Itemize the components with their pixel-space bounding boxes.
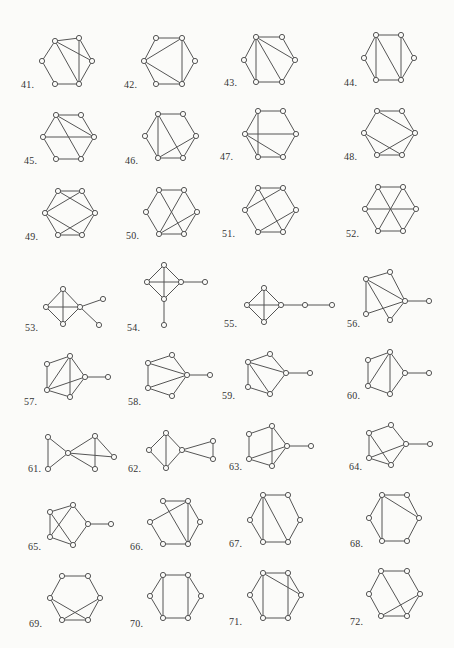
graph-vertex (241, 57, 246, 62)
graph-edge (50, 505, 73, 537)
graph-vertex (398, 77, 403, 82)
graph-edge (381, 571, 407, 616)
graph-vertex (246, 431, 251, 436)
figure-number: 68. (350, 538, 363, 549)
figure-number: 63. (229, 461, 242, 472)
graph-edge (164, 282, 181, 299)
graph-edge (146, 212, 159, 234)
figure-number: 42. (124, 79, 137, 90)
figure-page: 41.42.43.44.45.46.47.48.49.50.51.52.53.5… (0, 0, 454, 648)
graph-vertex (44, 361, 49, 366)
graph-vertex (85, 573, 90, 578)
graph-vertex (179, 35, 184, 40)
graph-edge (377, 111, 415, 133)
graph-edge (63, 289, 80, 307)
graph-edge (263, 573, 301, 595)
graph-vertex (416, 515, 421, 520)
graph-edge (248, 362, 270, 394)
graph-vertex (161, 322, 166, 327)
graph-vertex (59, 573, 64, 578)
figure-number: 69. (29, 618, 42, 629)
graph-vertex (285, 615, 290, 620)
graph-edge (248, 354, 270, 362)
graph-edge (149, 433, 166, 450)
graph-edge (369, 571, 381, 594)
graph-edge (145, 136, 158, 158)
graph-edge (55, 38, 79, 41)
graph-vertex (178, 279, 183, 284)
graph-vertex (426, 370, 431, 375)
graph-vertex (374, 108, 379, 113)
graph-edge (79, 61, 92, 84)
graph-vertex (379, 492, 384, 497)
graph-edge (148, 388, 172, 396)
graph-edge (184, 190, 197, 212)
graph-edge (403, 187, 416, 209)
figure-number: 46. (125, 155, 138, 166)
graph-edge (166, 450, 182, 468)
graph-vertex (284, 443, 289, 448)
graph-edge (366, 279, 390, 320)
graph-vertex (185, 572, 190, 577)
graph-figure (40, 112, 96, 161)
graph-vertex (92, 466, 97, 471)
graph-edge (147, 265, 164, 282)
graph-vertex (255, 108, 260, 113)
graph-vertex (60, 321, 65, 326)
graph-vertex (308, 443, 313, 448)
graph-figure (45, 433, 116, 471)
graph-edge (150, 575, 163, 596)
graph-vertex (39, 58, 44, 63)
graph-edge (164, 265, 181, 282)
figure-number: 72. (350, 616, 363, 627)
graph-figure (361, 32, 416, 82)
graph-edge (149, 450, 166, 468)
graph-edge (283, 134, 296, 157)
graph-edge (283, 188, 296, 210)
graph-edge (369, 518, 382, 541)
graph-vertex (96, 322, 101, 327)
figure-number: 51. (222, 228, 235, 239)
graph-vertex (255, 185, 260, 190)
graph-edge (249, 446, 287, 459)
graph-vertex (161, 296, 166, 301)
graph-vertex (47, 534, 52, 539)
graph-figure (42, 188, 97, 237)
graph-vertex (404, 613, 409, 618)
graph-edge (42, 41, 55, 61)
graph-edge (46, 307, 63, 324)
graph-figure (361, 108, 417, 157)
graph-edge (150, 596, 163, 618)
graph-vertex (153, 81, 158, 86)
graph-vertex (180, 111, 185, 116)
graph-vertex (246, 456, 251, 461)
graph-vertex (185, 498, 190, 503)
graph-vertex (398, 32, 403, 37)
graph-edge (244, 60, 256, 82)
graph-vertex (155, 111, 160, 116)
graph-edge (390, 352, 405, 373)
graph-figure (241, 34, 297, 84)
graph-vertex (185, 541, 190, 546)
graph-vertex (146, 447, 151, 452)
graph-vertex (143, 209, 148, 214)
figure-number: 65. (28, 541, 41, 552)
graph-edge (80, 307, 99, 325)
graph-edge (247, 305, 264, 322)
graph-vertex (292, 57, 297, 62)
graph-vertex (285, 570, 290, 575)
graph-vertex (210, 456, 215, 461)
graph-vertex (297, 517, 302, 522)
graph-vertex (180, 155, 185, 160)
graph-vertex (244, 302, 249, 307)
graph-vertex (400, 184, 405, 189)
graph-vertex (267, 391, 272, 396)
graph-vertex (375, 228, 380, 233)
graph-vertex (280, 154, 285, 159)
graph-vertex (210, 438, 215, 443)
graph-edge (390, 373, 405, 394)
graph-vertex (179, 81, 184, 86)
graph-vertex (169, 352, 174, 357)
graph-figure (366, 568, 422, 618)
graph-figure (141, 35, 197, 86)
